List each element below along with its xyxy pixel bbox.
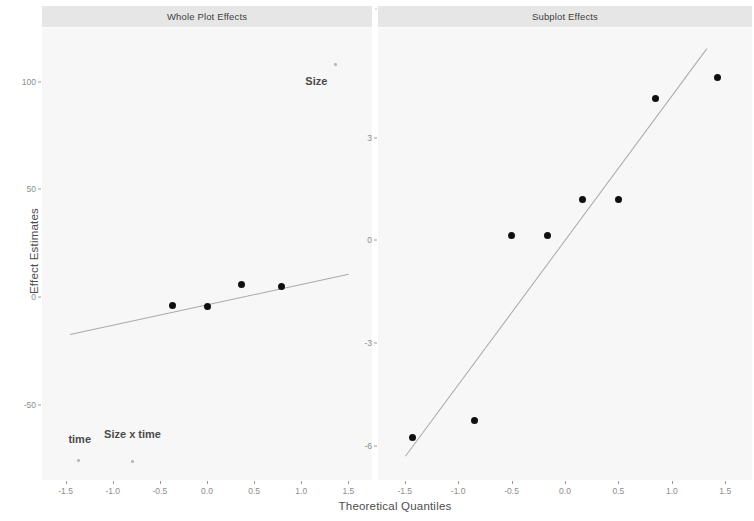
y-axis-tick-mark [374,343,377,344]
y-axis-tick-label: 50 [16,184,36,194]
qq-effects-figure: Effect Estimates Theoretical Quantiles W… [0,0,754,521]
data-point [238,281,245,288]
x-axis-tick-mark [66,481,67,484]
y-axis-tick-label: 0 [16,292,36,302]
data-point [169,302,176,309]
x-axis-tick-mark [458,481,459,484]
plot-area-right [378,28,752,480]
data-point [508,232,515,239]
data-point [204,303,211,310]
y-axis-tick-label: 0 [352,235,372,245]
x-axis-tick-mark [512,481,513,484]
data-point [471,417,478,424]
reference-line [405,49,707,457]
data-point [714,74,721,81]
data-point [278,283,285,290]
x-axis-tick-label: 0.0 [201,486,213,496]
x-axis-tick-mark [565,481,566,484]
x-axis-tick-mark [207,481,208,484]
stray-speck [375,8,377,10]
x-axis-tick-mark [725,481,726,484]
y-axis-tick-mark [374,137,377,138]
y-axis-title: Effect Estimates [28,171,40,331]
panel-subplot-effects: Subplot Effects [378,6,752,480]
x-axis-tick-label: 1.5 [343,486,355,496]
y-axis-tick-mark [38,81,41,82]
data-point [579,196,586,203]
y-axis-tick-label: 100 [16,77,36,87]
y-axis-tick-mark [38,404,41,405]
x-axis-title: Theoretical Quantiles [40,500,750,512]
x-axis-tick-label: -1.5 [58,486,73,496]
y-axis-tick-label: 3 [352,133,372,143]
data-point [77,459,80,462]
x-axis-tick-label: 1.0 [666,486,678,496]
point-annotation: time [68,433,91,445]
data-point [652,95,659,102]
x-axis-tick-mark [113,481,114,484]
y-axis-tick-mark [374,445,377,446]
x-axis-tick-mark [672,481,673,484]
x-axis-tick-mark [254,481,255,484]
x-axis-tick-label: 0.5 [613,486,625,496]
x-axis-tick-mark [301,481,302,484]
x-axis-tick-label: -1.5 [397,486,412,496]
x-axis-tick-label: -0.5 [153,486,168,496]
x-axis-tick-label: 1.0 [295,486,307,496]
data-point [544,232,551,239]
y-axis-tick-mark [374,240,377,241]
panel-title-left: Whole Plot Effects [42,6,372,27]
panel-title-right: Subplot Effects [378,6,752,27]
y-axis-tick-label: -3 [352,338,372,348]
x-axis-tick-mark [348,481,349,484]
data-point [334,63,337,66]
data-point [409,434,416,441]
y-axis-tick-label: -6 [352,441,372,451]
x-axis-tick-label: 0.0 [559,486,571,496]
x-axis-tick-mark [618,481,619,484]
point-annotation: Size x time [104,428,161,440]
x-axis-tick-label: -1.0 [105,486,120,496]
x-axis-tick-mark [405,481,406,484]
panel-whole-plot-effects: Whole Plot Effects SizetimeSize x time [42,6,372,480]
x-axis-tick-label: -0.5 [504,486,519,496]
x-axis-tick-label: -1.0 [451,486,466,496]
x-axis-tick-mark [160,481,161,484]
data-point [615,196,622,203]
data-point [131,460,134,463]
y-axis-tick-mark [38,189,41,190]
y-axis-tick-mark [38,297,41,298]
x-axis-tick-label: 1.5 [719,486,731,496]
x-axis-tick-label: 0.5 [248,486,260,496]
point-annotation: Size [305,75,327,87]
y-axis-tick-label: -50 [16,400,36,410]
plot-area-left: SizetimeSize x time [42,28,372,480]
